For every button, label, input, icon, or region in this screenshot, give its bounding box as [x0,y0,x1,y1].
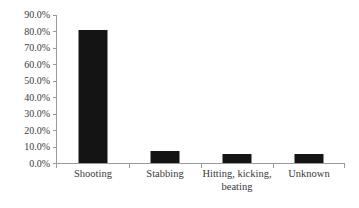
x-label-line: Hitting, kicking, [195,167,279,180]
x-label-line: Shooting [57,167,129,180]
bar-slot-stabbing [129,15,201,164]
x-label-hitting-kicking-beating: Hitting, kicking, beating [195,167,279,193]
x-label-unknown: Unknown [273,167,345,180]
y-axis: 90.0% 80.0% 70.0% 60.0% 50.0% 40.0% 30.0… [0,0,57,208]
y-tick-label: 80.0% [24,27,53,37]
x-label-shooting: Shooting [57,167,129,180]
bar-slot-unknown [273,15,345,164]
y-tick-label: 40.0% [24,93,53,103]
bar-stabbing [151,151,180,164]
x-label-line: Unknown [273,167,345,180]
y-tick-label: 0.0% [29,159,53,169]
x-axis: Shooting Stabbing Hitting, kicking, beat… [57,167,345,208]
bar-shooting [79,30,108,164]
x-label-stabbing: Stabbing [129,167,201,180]
y-tick-label: 70.0% [24,43,53,53]
y-tick-label: 50.0% [24,76,53,86]
y-tick-label: 60.0% [24,60,53,70]
x-label-line: Stabbing [129,167,201,180]
y-tick-label: 20.0% [24,126,53,136]
y-tick-label: 30.0% [24,109,53,119]
y-tick-label: 10.0% [24,142,53,152]
bar-chart: 90.0% 80.0% 70.0% 60.0% 50.0% 40.0% 30.0… [0,0,359,208]
bar-slot-hitting-kicking-beating [201,15,273,164]
x-label-line: beating [195,180,279,193]
bar-slot-shooting [57,15,129,164]
y-tick-label: 90.0% [24,10,53,20]
plot-area [57,15,345,164]
